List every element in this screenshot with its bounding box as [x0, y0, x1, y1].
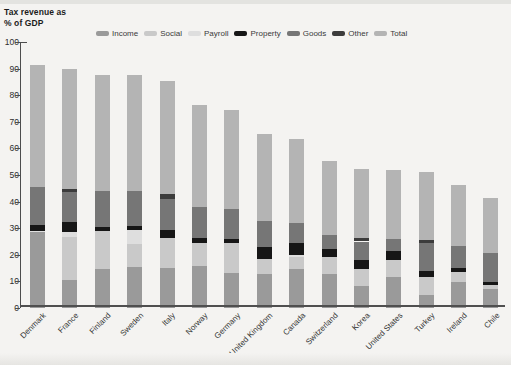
- bar-segment-social-sweden: [127, 244, 142, 268]
- bar-segment-goods-norway: [192, 207, 207, 239]
- bar-segment-total-sweden: [127, 75, 142, 192]
- x-axis-label-chile: Chile: [482, 311, 501, 330]
- bar-segment-property-canada: [289, 243, 304, 254]
- bar-segment-total-denmark: [30, 65, 45, 186]
- bar-segment-total-italy: [160, 81, 175, 195]
- bar-segment-property-finland: [95, 227, 110, 231]
- bar-segment-payroll-sweden: [127, 230, 142, 243]
- x-axis-label-sweden: Sweden: [118, 311, 145, 338]
- bar-segment-total-switzerland: [322, 161, 337, 234]
- bar-segment-income-canada: [289, 269, 304, 308]
- legend-swatch-social-icon: [144, 31, 157, 36]
- bar-segment-goods-italy: [160, 199, 175, 230]
- legend-item-other: Other: [332, 29, 368, 38]
- bar-segment-goods-korea: [354, 242, 369, 260]
- y-axis-tick-0: [15, 308, 20, 309]
- bar-segment-goods-united-states: [386, 239, 401, 251]
- bar-segment-total-finland: [95, 75, 110, 192]
- bar-segment-social-france: [62, 237, 77, 280]
- bar-segment-goods-sweden: [127, 191, 142, 226]
- legend-label-payroll: Payroll: [204, 29, 228, 38]
- bar-segment-goods-canada: [289, 223, 304, 243]
- bar-segment-other-france: [62, 189, 77, 193]
- bar-segment-payroll-canada: [289, 255, 304, 257]
- legend-swatch-property-icon: [234, 31, 247, 36]
- bar-segment-total-france: [62, 69, 77, 188]
- bar-segment-income-united-states: [386, 277, 401, 308]
- bar-segment-total-ireland: [451, 185, 466, 247]
- x-axis-label-italy: Italy: [161, 311, 178, 328]
- bar-segment-other-korea: [354, 238, 369, 241]
- bar-segment-property-united-kingdom: [257, 247, 272, 259]
- bar-segment-social-united-states: [386, 260, 401, 278]
- x-axis-label-turkey: Turkey: [413, 311, 436, 334]
- bar-segment-property-germany: [224, 239, 239, 244]
- bar-segment-social-switzerland: [322, 257, 337, 274]
- bar-segment-other-italy: [160, 194, 175, 199]
- bar-segment-property-chile: [483, 282, 498, 285]
- bar-segment-social-finland: [95, 231, 110, 269]
- bar-segment-income-united-kingdom: [257, 274, 272, 308]
- legend-swatch-income-icon: [96, 31, 109, 36]
- legend-swatch-payroll-icon: [188, 31, 201, 36]
- bar-segment-property-norway: [192, 238, 207, 243]
- legend-label-other: Other: [348, 29, 368, 38]
- bar-segment-property-denmark: [30, 225, 45, 230]
- x-axis-label-germany: Germany: [213, 311, 243, 341]
- bar-segment-total-norway: [192, 105, 207, 206]
- bar-segment-property-italy: [160, 230, 175, 239]
- bar-segment-social-germany: [224, 243, 239, 273]
- legend-label-income: Income: [112, 29, 138, 38]
- bar-segment-payroll-denmark: [30, 231, 45, 232]
- legend-label-goods: Goods: [303, 29, 327, 38]
- bar-segment-income-switzerland: [322, 274, 337, 308]
- legend-label-total: Total: [390, 29, 407, 38]
- bar-segment-goods-ireland: [451, 246, 466, 267]
- bar-segment-total-canada: [289, 139, 304, 224]
- bar-segment-social-chile: [483, 285, 498, 289]
- chart-title-line2: % of GDP: [4, 18, 66, 29]
- bar-segment-income-germany: [224, 273, 239, 308]
- legend-swatch-goods-icon: [287, 31, 300, 36]
- bar-segment-income-sweden: [127, 267, 142, 308]
- x-axis-label-ireland: Ireland: [445, 311, 469, 335]
- legend-swatch-total-icon: [374, 31, 387, 36]
- bar-segment-property-france: [62, 222, 77, 232]
- bar-segment-other-turkey: [419, 240, 434, 242]
- bar-segment-property-ireland: [451, 268, 466, 273]
- bar-segment-social-italy: [160, 238, 175, 268]
- bar-segment-income-italy: [160, 268, 175, 308]
- legend-swatch-other-icon: [332, 31, 345, 36]
- x-axis-label-norway: Norway: [184, 311, 210, 337]
- bar-segment-total-united-kingdom: [257, 134, 272, 221]
- page-edge-bottom: [0, 353, 511, 365]
- legend-item-income: Income: [96, 29, 138, 38]
- bar-segment-goods-finland: [95, 191, 110, 227]
- y-axis-line: [20, 42, 21, 308]
- bar-segment-property-turkey: [419, 271, 434, 277]
- bar-segment-property-switzerland: [322, 249, 337, 257]
- bar-segment-total-turkey: [419, 172, 434, 240]
- bar-segment-payroll-france: [62, 232, 77, 237]
- bar-segment-goods-chile: [483, 253, 498, 282]
- bar-segment-goods-germany: [224, 209, 239, 239]
- page-edge-top: [0, 0, 511, 4]
- bar-segment-property-united-states: [386, 251, 401, 260]
- bar-segment-social-canada: [289, 257, 304, 270]
- bar-segment-goods-switzerland: [322, 235, 337, 250]
- legend-item-goods: Goods: [287, 29, 327, 38]
- legend-label-social: Social: [160, 29, 182, 38]
- bar-segment-goods-france: [62, 192, 77, 222]
- x-axis-label-canada: Canada: [281, 311, 307, 337]
- bar-segment-social-ireland: [451, 272, 466, 282]
- bar-segment-social-norway: [192, 243, 207, 265]
- bar-segment-income-norway: [192, 266, 207, 308]
- x-axis-label-korea: Korea: [350, 311, 371, 332]
- chart-canvas: Tax revenue as % of GDP IncomeSocialPayr…: [0, 0, 511, 365]
- legend-item-payroll: Payroll: [188, 29, 228, 38]
- legend-item-total: Total: [374, 29, 407, 38]
- bar-segment-total-chile: [483, 198, 498, 253]
- bar-segment-goods-denmark: [30, 187, 45, 226]
- legend: IncomeSocialPayrollPropertyGoodsOtherTot…: [96, 28, 413, 38]
- bar-segment-goods-turkey: [419, 243, 434, 272]
